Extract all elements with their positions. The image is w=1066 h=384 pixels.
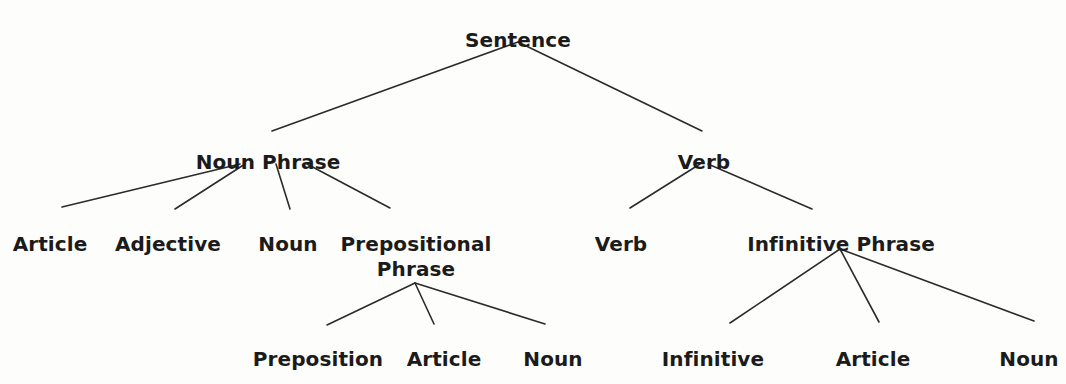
tree-node-verb-leaf: Verb bbox=[595, 232, 648, 257]
tree-node-article-3: Article bbox=[836, 347, 911, 372]
tree-edge-sentence-to-noun-phrase bbox=[272, 42, 518, 131]
tree-node-preposition-1: Preposition bbox=[253, 347, 383, 372]
tree-edge-prepositional-phrase-to-article-2 bbox=[415, 283, 434, 324]
tree-edge-sentence-to-verb-top bbox=[518, 42, 702, 131]
tree-node-noun-phrase: Noun Phrase bbox=[196, 150, 341, 175]
tree-node-noun-2: Noun bbox=[523, 347, 582, 372]
tree-node-article-1: Article bbox=[13, 232, 88, 257]
tree-edge-prepositional-phrase-to-preposition-1 bbox=[327, 283, 415, 325]
tree-edge-prepositional-phrase-to-noun-2 bbox=[415, 283, 545, 324]
tree-node-sentence: Sentence bbox=[465, 28, 571, 53]
tree-edge-layer bbox=[0, 0, 1066, 384]
tree-edge-infinitive-phrase-to-article-3 bbox=[840, 249, 879, 322]
tree-node-adjective-1: Adjective bbox=[115, 232, 221, 257]
tree-edge-infinitive-phrase-to-infinitive-1 bbox=[730, 249, 840, 323]
tree-edge-infinitive-phrase-to-noun-3 bbox=[840, 249, 1034, 321]
tree-node-noun-1: Noun bbox=[258, 232, 317, 257]
syntax-tree-diagram: SentenceNoun PhraseVerbArticleAdjectiveN… bbox=[0, 0, 1066, 384]
tree-node-noun-3: Noun bbox=[999, 347, 1058, 372]
tree-node-verb-top: Verb bbox=[678, 150, 731, 175]
tree-node-article-2: Article bbox=[407, 347, 482, 372]
tree-node-infinitive-phrase: Infinitive Phrase bbox=[747, 232, 935, 257]
tree-node-prepositional-phrase: Prepositional Phrase bbox=[336, 232, 496, 282]
tree-node-infinitive-1: Infinitive bbox=[662, 347, 764, 372]
